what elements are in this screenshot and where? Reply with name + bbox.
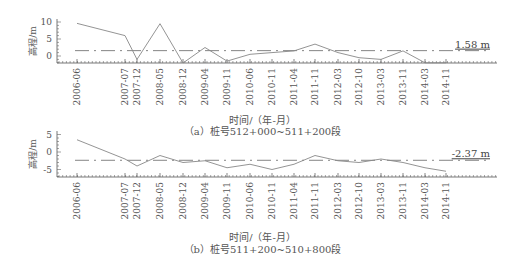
x-tick-label: 2007-12 xyxy=(132,182,142,219)
y-tick-label: 5 xyxy=(46,34,52,44)
x-tick-label: 2012-10 xyxy=(354,182,364,220)
x-tick-label: 2007-07 xyxy=(120,68,130,106)
x-tick-label: 2009-11 xyxy=(222,182,232,219)
x-tick-label: 2014-03 xyxy=(420,182,430,220)
x-tick-label: 2008-12 xyxy=(178,68,188,105)
x-tick-label: 2012-10 xyxy=(354,68,364,106)
y-tick-label: 10 xyxy=(41,17,53,27)
x-tick-label: 2013-11 xyxy=(398,68,408,105)
x-tick-label: 2014-11 xyxy=(441,68,451,105)
reference-label: -2.37 m xyxy=(452,148,491,159)
y-tick-label: 0 xyxy=(46,147,52,157)
caption-b: （b）桩号511+200~510+800段 xyxy=(0,241,525,256)
y-axis-title: 高程/m xyxy=(27,139,38,169)
caption-a: （a）桩号512+000~511+200段 xyxy=(0,123,525,138)
x-tick-label: 2014-03 xyxy=(420,68,430,106)
x-tick-label: 2013-03 xyxy=(376,68,386,106)
x-tick-label: 2013-03 xyxy=(376,182,386,220)
elevation-series-line xyxy=(77,140,446,172)
x-tick-label: 2011-04 xyxy=(289,182,299,220)
x-tick-label: 2011-04 xyxy=(289,68,299,106)
elevation-series-line xyxy=(77,23,446,63)
x-tick-label: 2009-04 xyxy=(200,68,210,106)
x-tick-label: 2012-03 xyxy=(333,182,343,220)
x-tick-label: 2011-11 xyxy=(310,182,320,219)
x-tick-label: 2007-07 xyxy=(120,182,130,220)
x-tick-label: 2014-11 xyxy=(441,182,451,219)
x-tick-label: 2010-11 xyxy=(267,68,277,105)
reference-label: 1.58 m xyxy=(455,39,490,50)
x-tick-label: 2010-11 xyxy=(267,182,277,219)
x-tick-label: 2010-06 xyxy=(245,68,255,106)
x-tick-label: 2008-05 xyxy=(155,182,165,220)
x-tick-label: 2011-11 xyxy=(310,68,320,105)
x-tick-label: 2008-05 xyxy=(155,68,165,106)
x-tick-label: 2012-03 xyxy=(333,68,343,106)
x-tick-label: 2009-11 xyxy=(222,68,232,105)
y-axis-title: 高程/m xyxy=(27,26,38,56)
y-tick-label: -5 xyxy=(43,165,52,175)
y-tick-label: 0 xyxy=(46,51,52,61)
x-tick-label: 2009-04 xyxy=(200,182,210,220)
x-tick-label: 2007-12 xyxy=(132,68,142,105)
x-tick-label: 2006-06 xyxy=(72,182,82,220)
x-tick-label: 2010-06 xyxy=(245,182,255,220)
x-tick-label: 2008-12 xyxy=(178,182,188,219)
chart-panel-a: 0510高程/m2006-062007-072007-122008-052008… xyxy=(27,17,497,105)
x-tick-label: 2006-06 xyxy=(72,68,82,106)
x-tick-label: 2013-11 xyxy=(398,182,408,219)
chart-panel-b: -505高程/m2006-062007-072007-122008-052008… xyxy=(27,130,497,220)
